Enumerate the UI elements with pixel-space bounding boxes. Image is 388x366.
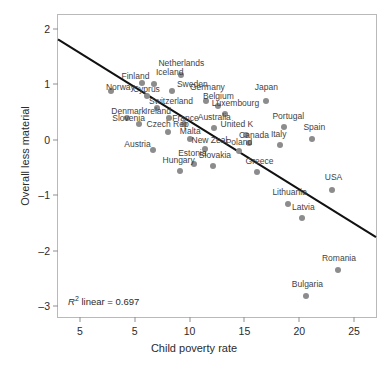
data-point-label: Luxembourg [212, 98, 259, 107]
scatter-chart-figure: Overall less material Child poverty rate… [0, 0, 388, 366]
data-point[interactable] [150, 147, 156, 153]
data-point-label: Poland [226, 137, 252, 146]
data-point-label: Norway [106, 83, 135, 92]
data-point-label: Slovakia [199, 150, 231, 159]
y-axis-tick [53, 139, 58, 140]
data-point[interactable] [303, 293, 309, 299]
y-axis-tick-label: –1 [38, 189, 50, 201]
x-axis-tick-label: 10 [184, 325, 196, 337]
data-point-label: Japan [255, 83, 278, 92]
data-point-label: Romania [322, 253, 356, 262]
data-point[interactable] [329, 187, 335, 193]
x-axis-tick-label: 20 [293, 325, 305, 337]
data-point-label: Iceland [156, 68, 183, 77]
y-axis-tick-label: –2 [38, 245, 50, 257]
data-point[interactable] [277, 142, 283, 148]
data-points-layer: NetherlandsIcelandFinlandNorwaySwedenCyp… [58, 15, 376, 317]
data-point[interactable] [236, 148, 242, 154]
data-point[interactable] [169, 88, 175, 94]
data-point[interactable] [136, 121, 142, 127]
data-point-label: Portugal [272, 111, 304, 120]
data-point-label: Ireland [145, 106, 171, 115]
x-axis-tick [134, 317, 135, 322]
x-axis-tick-label: 25 [348, 325, 360, 337]
data-point-label: Switzerland [149, 97, 193, 106]
x-axis-tick [79, 317, 80, 322]
data-point[interactable] [285, 201, 291, 207]
x-axis-tick [299, 317, 300, 322]
data-point-label: Bulgaria [292, 280, 323, 289]
y-axis-tick-label: 2 [44, 23, 50, 35]
x-axis-tick [244, 317, 245, 322]
data-point-label: Malta [180, 126, 201, 135]
r-squared-symbol: R [68, 297, 75, 308]
data-point[interactable] [177, 168, 183, 174]
data-point-label: Latvia [292, 202, 315, 211]
data-point-label: USA [325, 172, 342, 181]
data-point[interactable] [211, 125, 217, 131]
data-point[interactable] [210, 163, 216, 169]
x-axis-label: Child poverty rate [0, 342, 388, 354]
data-point[interactable] [165, 129, 171, 135]
data-point[interactable] [299, 215, 305, 221]
data-point-label: Greece [246, 156, 274, 165]
data-point-label: Slovenia [112, 113, 145, 122]
data-point-label: Italy [271, 129, 287, 138]
data-point[interactable] [254, 169, 260, 175]
x-axis-tick-label: 5 [132, 325, 138, 337]
data-point-label: Cyprus [133, 84, 160, 93]
data-point[interactable] [335, 267, 341, 273]
y-axis-label: Overall less material [19, 56, 31, 256]
y-axis-tick [53, 195, 58, 196]
data-point-label: United K [221, 119, 254, 128]
x-axis-tick-label: 5 [77, 325, 83, 337]
y-axis-tick-label: 0 [44, 134, 50, 146]
data-point-label: Finland [121, 71, 149, 80]
plot-area: NetherlandsIcelandFinlandNorwaySwedenCyp… [57, 14, 377, 318]
data-point-label: Lithuania [272, 188, 307, 197]
y-axis-tick [53, 305, 58, 306]
data-point-label: Spain [303, 122, 325, 131]
data-point-label: Austria [124, 139, 150, 148]
data-point[interactable] [309, 136, 315, 142]
x-axis-tick [189, 317, 190, 322]
y-axis-tick-label: –3 [38, 300, 50, 312]
r-squared-annotation: R2 linear = 0.697 [68, 295, 139, 307]
r-squared-value-text: linear = 0.697 [79, 297, 139, 308]
y-axis-tick [53, 84, 58, 85]
y-axis-tick [53, 28, 58, 29]
y-axis-tick-label: 1 [44, 78, 50, 90]
x-axis-tick [354, 317, 355, 322]
y-axis-tick [53, 250, 58, 251]
x-axis-tick-label: 15 [239, 325, 251, 337]
data-point-label: Hungary [163, 155, 195, 164]
data-point[interactable] [263, 98, 269, 104]
data-point-label: Netherlands [158, 58, 204, 67]
data-point-label: New Zeal [192, 136, 228, 145]
